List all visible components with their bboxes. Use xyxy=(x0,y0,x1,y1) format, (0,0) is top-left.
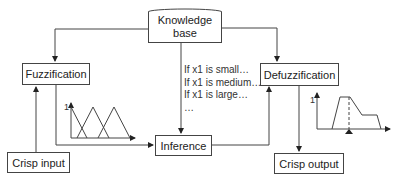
inference-label: Inference xyxy=(161,140,207,152)
crisp-output-node: Crisp output xyxy=(274,153,344,174)
rule-list: If x1 is small… If x1 is medium… If x1 i… xyxy=(184,64,261,114)
rule-item: If x1 is large… xyxy=(184,89,261,102)
fuzzification-node: Fuzzification xyxy=(22,63,90,85)
fuzzification-label: Fuzzification xyxy=(25,68,86,80)
output-y-tick: 1 xyxy=(310,95,315,105)
kb-to-fuzzification-arrow xyxy=(55,29,148,61)
rule-item: If x1 is small… xyxy=(184,64,261,77)
centroid-marker-icon xyxy=(345,129,353,134)
inference-node: Inference xyxy=(155,135,212,156)
defuzzification-node: Defuzzification xyxy=(260,63,339,86)
knowledge-base-label-1: Knowledge xyxy=(158,14,212,27)
knowledge-base-node: Knowledge base xyxy=(148,12,222,43)
crisp-output-label: Crisp output xyxy=(279,158,338,170)
membership-y-tick: 1 xyxy=(64,102,69,112)
defuzzification-label: Defuzzification xyxy=(264,69,336,81)
rule-item: … xyxy=(184,102,261,115)
crisp-input-label: Crisp input xyxy=(12,157,65,169)
rule-item: If x1 is medium… xyxy=(184,77,261,90)
knowledge-base-label-2: base xyxy=(173,27,197,40)
output-set-plot xyxy=(317,93,390,129)
crisp-input-node: Crisp input xyxy=(7,152,70,173)
kb-to-defuzzification-arrow xyxy=(222,28,277,61)
membership-function-plot xyxy=(71,103,135,138)
